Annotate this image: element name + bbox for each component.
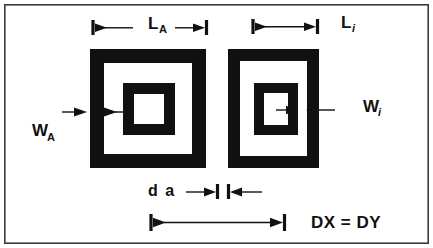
inner-length-label: L bbox=[341, 13, 351, 32]
outer-length-label-subscript: A bbox=[159, 23, 167, 35]
gap-label: d a bbox=[148, 182, 176, 199]
srr-geometry-figure: L A L i W A bbox=[0, 0, 433, 248]
period-label: DX = DY bbox=[311, 213, 381, 232]
figure-border bbox=[5, 5, 428, 243]
outer-length-label: L bbox=[148, 14, 158, 33]
diagram-canvas: L A L i W A bbox=[0, 0, 433, 248]
outer-width-label-subscript: A bbox=[47, 131, 55, 143]
